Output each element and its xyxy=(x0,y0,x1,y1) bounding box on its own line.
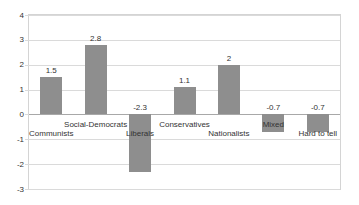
category-label: Social-Democrats xyxy=(51,120,141,129)
bar-value-label: 2 xyxy=(209,54,249,64)
y-axis-tick xyxy=(25,114,29,115)
y-axis-tick-label: 4 xyxy=(1,10,24,21)
bar xyxy=(85,45,107,115)
gridline xyxy=(29,139,340,140)
bar-value-label: -0.7 xyxy=(253,103,293,113)
gridline xyxy=(29,15,340,16)
bar-chart: 43210-1-2-31.5Communists2.8Social-Democr… xyxy=(0,0,359,205)
y-axis-tick xyxy=(25,164,29,165)
y-axis-tick xyxy=(25,65,29,66)
y-axis-tick-label: -3 xyxy=(1,184,24,195)
bar xyxy=(218,65,240,115)
category-label: Hard to tell xyxy=(273,129,359,138)
bar-value-label: 1.1 xyxy=(165,76,205,86)
y-axis-tick-label: 0 xyxy=(1,109,24,120)
y-axis-tick xyxy=(25,90,29,91)
bar xyxy=(40,77,62,114)
gridline xyxy=(29,164,340,165)
category-label: Conservatives xyxy=(140,120,230,129)
category-label: Mixed xyxy=(228,120,318,129)
bar-value-label: -0.7 xyxy=(298,103,338,113)
y-axis-tick xyxy=(25,40,29,41)
gridline xyxy=(29,189,340,190)
category-label: Communists xyxy=(6,129,96,138)
y-axis-tick xyxy=(25,15,29,16)
y-axis-tick xyxy=(25,139,29,140)
y-axis-tick-label: 2 xyxy=(1,59,24,70)
y-axis-tick-label: -2 xyxy=(1,159,24,170)
plot-area: 43210-1-2-31.5Communists2.8Social-Democr… xyxy=(28,14,341,190)
y-axis-tick xyxy=(25,189,29,190)
gridline xyxy=(29,65,340,66)
bar-value-label: 1.5 xyxy=(31,66,71,76)
category-label: Liberals xyxy=(95,129,185,138)
category-label: Nationalists xyxy=(184,129,274,138)
bar-value-label: -2.3 xyxy=(120,103,160,113)
bar-value-label: 2.8 xyxy=(76,34,116,44)
y-axis-tick-label: 1 xyxy=(1,84,24,95)
gridline xyxy=(29,114,340,115)
y-axis-tick-label: 3 xyxy=(1,34,24,45)
bar xyxy=(174,87,196,114)
